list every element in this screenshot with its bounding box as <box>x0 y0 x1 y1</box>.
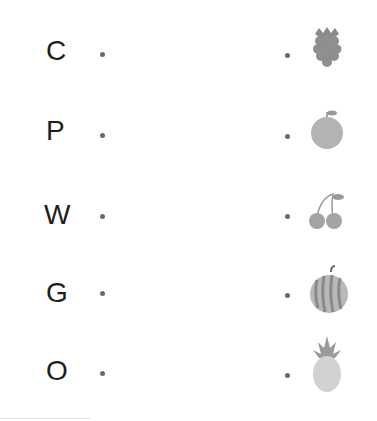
cherries-icon <box>305 186 349 234</box>
match-row-4: G <box>0 260 377 320</box>
left-connect-dot[interactable] <box>100 371 105 376</box>
raspberry-icon <box>305 24 349 72</box>
right-connect-dot[interactable] <box>285 134 290 139</box>
letter-c: C <box>46 36 76 66</box>
letter-o: O <box>46 356 76 386</box>
orange-icon <box>305 106 349 154</box>
left-connect-dot[interactable] <box>100 291 105 296</box>
right-connect-dot[interactable] <box>285 373 290 378</box>
divider <box>0 418 90 419</box>
left-connect-dot[interactable] <box>100 133 105 138</box>
left-connect-dot[interactable] <box>100 214 105 219</box>
match-row-2: P <box>0 102 377 162</box>
left-connect-dot[interactable] <box>100 52 105 57</box>
letter-g: G <box>46 278 76 308</box>
right-connect-dot[interactable] <box>285 214 290 219</box>
right-connect-dot[interactable] <box>285 293 290 298</box>
pineapple-icon <box>305 334 349 394</box>
match-row-1: C <box>0 20 377 80</box>
letter-w: W <box>44 200 74 230</box>
match-row-5: O <box>0 338 377 398</box>
match-row-3: W <box>0 184 377 244</box>
matching-worksheet: C P W <box>0 0 377 421</box>
letter-p: P <box>46 116 76 146</box>
right-connect-dot[interactable] <box>285 53 290 58</box>
watermelon-icon <box>305 262 349 314</box>
